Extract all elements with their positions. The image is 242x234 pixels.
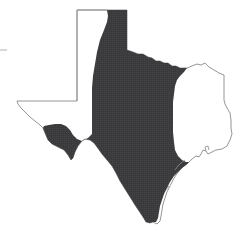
map-container <box>0 0 242 234</box>
artifact-speck <box>0 49 7 51</box>
texas-map <box>0 0 242 234</box>
